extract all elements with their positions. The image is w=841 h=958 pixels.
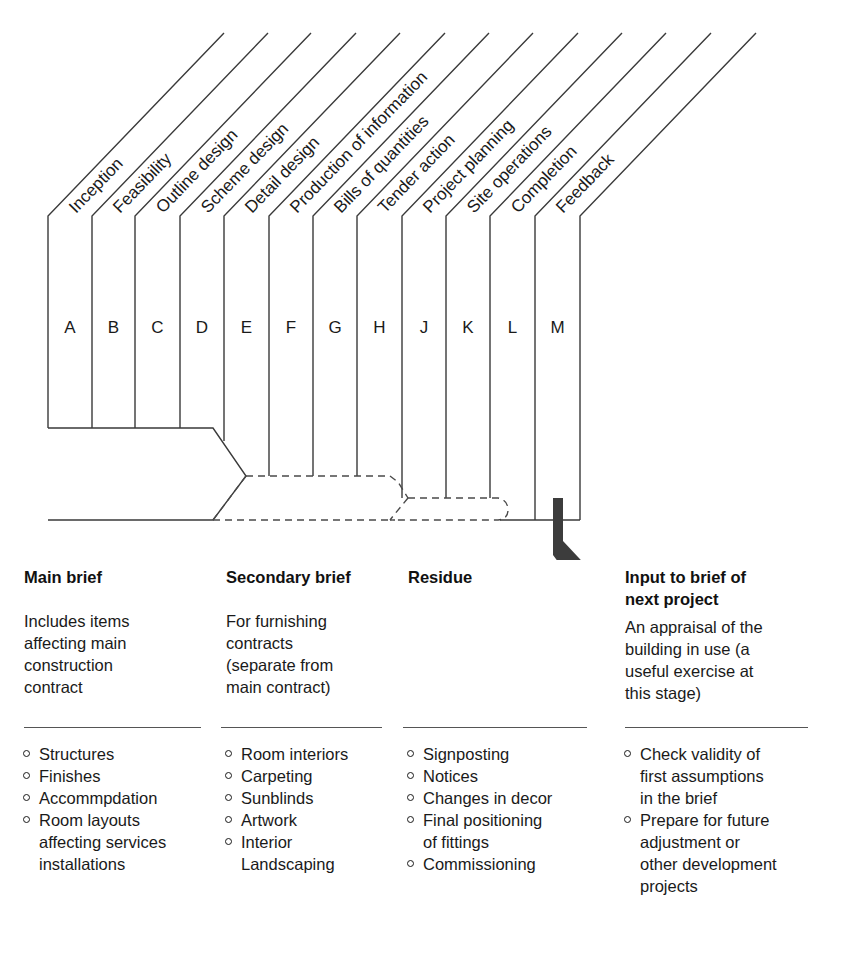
item-list: Signposting Notices Changes in decor Fin…: [406, 743, 606, 875]
divider: [24, 727, 201, 728]
bullet-icon: [23, 794, 30, 801]
residue-bracket: [390, 498, 508, 520]
list-item: InteriorLandscaping: [224, 831, 414, 875]
list-item: Signposting: [406, 743, 606, 765]
list-item: Prepare for futureadjustment orother dev…: [623, 809, 833, 897]
stage-divider: [48, 33, 224, 428]
column-main-brief: Main brief Includes items affecting main…: [24, 566, 214, 698]
list-item: Room interiors: [224, 743, 414, 765]
stage-letter: F: [286, 318, 296, 337]
bullet-icon: [225, 838, 232, 845]
bullet-icon: [23, 750, 30, 757]
list-item: Structures: [22, 743, 222, 765]
bullet-icon: [407, 750, 414, 757]
column-secondary-brief: Secondary brief For furnishing contracts…: [226, 566, 406, 698]
stage-divider: [357, 33, 533, 476]
column-description: For furnishing contracts (separate from …: [226, 610, 406, 698]
stage-letter: D: [196, 318, 208, 337]
list-item: Commissioning: [406, 853, 606, 875]
bullet-icon: [624, 750, 631, 757]
stage-letter: M: [550, 318, 564, 337]
bullet-icon: [624, 816, 631, 823]
list-item: Sunblinds: [224, 787, 414, 809]
stage-label: Tender action: [374, 130, 459, 217]
stage-letter: A: [64, 318, 76, 337]
stage-letter: G: [328, 318, 341, 337]
stage-letter: K: [462, 318, 474, 337]
bullet-icon: [407, 816, 414, 823]
item-list: Room interiors Carpeting Sunblinds Artwo…: [224, 743, 414, 875]
list-item: Final positioningof fittings: [406, 809, 606, 853]
column-description: Includes items affecting main constructi…: [24, 610, 214, 698]
stage-divider: [180, 33, 356, 428]
item-list: Check validity offirst assumptionsin the…: [623, 743, 833, 897]
stage-divider: [535, 33, 711, 520]
stage-divider: [135, 33, 311, 428]
bullet-icon: [407, 860, 414, 867]
column-heading: Residue: [408, 566, 598, 588]
stage-letter: E: [241, 318, 252, 337]
column-heading: Secondary brief: [226, 566, 406, 588]
bullet-icon: [225, 816, 232, 823]
stage-labels: InceptionFeasibilityOutline designScheme…: [65, 68, 618, 217]
main-brief-bracket: [48, 428, 246, 520]
list-item: Check validity offirst assumptionsin the…: [623, 743, 833, 809]
list-item: Accommpdation: [22, 787, 222, 809]
stage-divider: [446, 33, 622, 498]
list-item: Carpeting: [224, 765, 414, 787]
list-item: Changes in decor: [406, 787, 606, 809]
bullet-icon: [23, 816, 30, 823]
stage-divider: [580, 33, 756, 520]
stage-letter: C: [151, 318, 163, 337]
riba-plan-of-work-diagram: InceptionFeasibilityOutline designScheme…: [0, 0, 841, 560]
stage-letter: L: [508, 318, 517, 337]
list-item: Finishes: [22, 765, 222, 787]
stage-letter: B: [108, 318, 119, 337]
bullet-icon: [407, 794, 414, 801]
list-item: Room layoutsaffecting servicesinstallati…: [22, 809, 222, 875]
bullet-icon: [407, 772, 414, 779]
list-item: Notices: [406, 765, 606, 787]
column-residue: Residue Signposting Notices Changes in d…: [408, 566, 598, 588]
divider: [221, 727, 382, 728]
bullet-icon: [225, 772, 232, 779]
divider: [625, 727, 808, 728]
column-description: An appraisal of the building in use (a u…: [625, 616, 825, 704]
stage-divider: [490, 33, 666, 498]
bullet-icon: [23, 772, 30, 779]
column-heading: Input to brief of next project: [625, 566, 825, 610]
bullet-icon: [225, 750, 232, 757]
bullet-icon: [225, 794, 232, 801]
list-item: Artwork: [224, 809, 414, 831]
stage-divider: [224, 33, 400, 441]
item-list: Structures Finishes Accommpdation Room l…: [22, 743, 222, 875]
secondary-brief-bracket: [213, 476, 408, 520]
stage-letter: H: [373, 318, 385, 337]
column-heading: Main brief: [24, 566, 214, 588]
column-input-next-project: Input to brief of next project An apprai…: [625, 566, 825, 704]
divider: [403, 727, 587, 728]
stage-letter: J: [420, 318, 429, 337]
